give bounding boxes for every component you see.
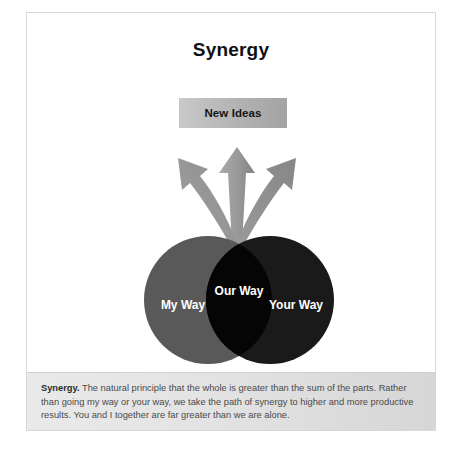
page-title: Synergy [27,39,435,61]
new-ideas-box: New Ideas [179,98,287,128]
caption-text: Synergy. The natural principle that the … [41,382,421,423]
new-ideas-label: New Ideas [204,107,261,119]
caption-band: Synergy. The natural principle that the … [27,372,435,430]
venn-label-your-way: Your Way [269,298,323,312]
caption-body: The natural principle that the whole is … [41,383,413,420]
figure-frame: Synergy New Ideas [26,12,436,431]
venn-svg: My Way Our Way Your Way [139,231,339,369]
venn-diagram: My Way Our Way Your Way [139,231,339,369]
caption-lead-term: Synergy. [41,383,80,393]
venn-label-our-way: Our Way [215,284,264,298]
venn-label-my-way: My Way [161,298,206,312]
